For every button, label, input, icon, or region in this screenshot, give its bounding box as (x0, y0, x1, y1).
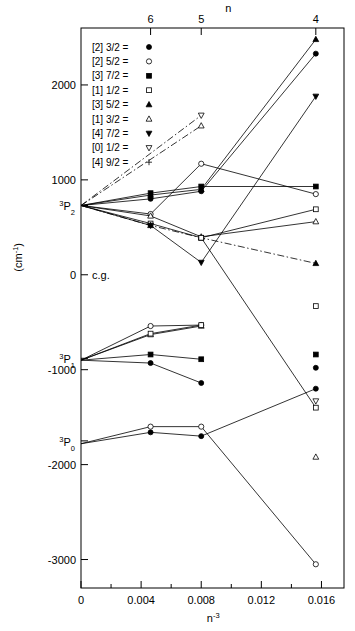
y-tick-label: 1000 (52, 174, 76, 186)
y-axis-title: (cm-1) (11, 243, 25, 272)
y-tick-label: 0 (70, 269, 76, 281)
legend-label: [1] 1/2 = (92, 85, 129, 96)
chart-container: 654n00.0040.0080.0120.016n-3200010000-10… (0, 0, 355, 631)
data-point (313, 352, 318, 357)
term-symbol-label: 3P0 (59, 434, 75, 452)
data-point (313, 184, 318, 189)
data-point (198, 123, 204, 128)
legend-marker-open-triangle-down (146, 146, 152, 151)
series-line-16 (81, 427, 316, 565)
data-point (313, 386, 318, 391)
data-point (313, 562, 318, 567)
data-point (199, 424, 204, 429)
data-point (148, 331, 153, 336)
x-tick-label: 0.008 (187, 594, 215, 606)
legend-marker-filled-circle (147, 45, 152, 50)
series-line-1 (81, 164, 316, 214)
legend-marker-filled-triangle-down (146, 131, 152, 136)
data-point (313, 304, 318, 309)
data-point (148, 424, 153, 429)
center-of-gravity-label: c.g. (92, 269, 110, 281)
y-tick-label: -3000 (48, 554, 76, 566)
legend-label: [0] 1/2 = (92, 142, 129, 153)
legend-label: [2] 5/2 = (92, 56, 129, 67)
data-point (199, 235, 204, 240)
top-tick-label: 5 (198, 13, 204, 25)
series-line-3 (81, 205, 316, 237)
data-point (199, 434, 204, 439)
data-point (313, 454, 319, 459)
series-line-9 (81, 205, 316, 263)
data-point (198, 113, 204, 118)
y-tick-label: 2000 (52, 79, 76, 91)
data-point (198, 260, 204, 265)
y-tick-label: -2000 (48, 459, 76, 471)
x-tick-label: 0.004 (127, 594, 155, 606)
x-tick-label: 0.012 (248, 594, 276, 606)
series-line-17 (201, 238, 316, 408)
data-point (313, 192, 318, 197)
data-point (313, 399, 319, 404)
energy-level-plot: 654n00.0040.0080.0120.016n-3200010000-10… (0, 0, 355, 631)
legend-label: [3] 7/2 = (92, 70, 129, 81)
data-point (313, 51, 318, 56)
x-axis-title: n-3 (207, 611, 220, 625)
legend-marker-open-triangle-up (146, 116, 152, 121)
legend-marker-open-circle (146, 59, 151, 64)
legend-label: [2] 3/2 = (92, 42, 129, 53)
data-point (148, 352, 153, 357)
data-point (313, 207, 318, 212)
data-point (199, 161, 204, 166)
data-point (199, 323, 204, 328)
data-point (199, 357, 204, 362)
data-point (148, 323, 153, 328)
data-point (313, 405, 318, 410)
legend-label: [4] 9/2 = (92, 157, 129, 168)
data-point (313, 365, 318, 370)
data-point (313, 219, 319, 224)
data-point (313, 36, 319, 41)
term-symbol-label: 3P2 (59, 199, 75, 217)
legend-marker-filled-triangle-up (146, 102, 152, 107)
legend-label: [1] 3/2 = (92, 114, 129, 125)
legend-marker-filled-square (147, 73, 152, 78)
series-line-12 (81, 355, 201, 361)
legend-label: [4] 7/2 = (92, 128, 129, 139)
legend-marker-open-square (147, 88, 152, 93)
x-tick-label: 0 (78, 594, 84, 606)
top-axis-title: n (225, 2, 231, 14)
legend-label: [3] 5/2 = (92, 99, 129, 110)
top-tick-label: 6 (148, 13, 154, 25)
data-point (199, 380, 204, 385)
x-tick-label: 0.016 (308, 594, 336, 606)
data-point (148, 361, 153, 366)
series-line-10 (81, 360, 201, 383)
top-tick-label: 4 (313, 13, 319, 25)
data-point (148, 430, 153, 435)
